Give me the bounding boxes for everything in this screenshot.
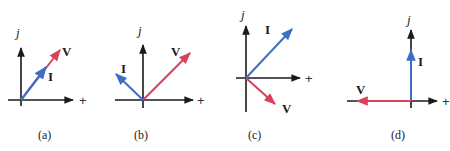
imaginary-axis-label: j — [239, 7, 245, 22]
current-label: I — [418, 54, 423, 69]
panel-a: j + V I (a) — [8, 25, 87, 142]
current-phasor — [116, 74, 143, 100]
current-label: I — [48, 69, 53, 84]
real-axis-label: + — [197, 93, 205, 108]
current-label: I — [265, 22, 270, 37]
panel-caption: (d) — [391, 128, 405, 142]
imaginary-axis-label: j — [136, 23, 142, 38]
voltage-label: V — [62, 44, 72, 59]
imaginary-axis-label: j — [14, 25, 20, 40]
voltage-phasor — [246, 78, 275, 104]
panel-c: j + I V (c) — [236, 7, 313, 142]
panel-caption: (a) — [38, 128, 51, 142]
real-axis-label: + — [442, 94, 450, 109]
current-phasor — [21, 67, 46, 100]
phasor-diagrams: j + V I (a) j + V I (b) j + I V (c) j + … — [0, 0, 450, 151]
real-axis-label: + — [79, 93, 87, 108]
current-label: I — [121, 61, 126, 76]
panel-caption: (c) — [248, 128, 261, 142]
voltage-label: V — [356, 82, 366, 97]
panel-caption: (b) — [134, 128, 148, 142]
real-axis-label: + — [305, 71, 313, 86]
panel-b: j + V I (b) — [115, 23, 205, 142]
voltage-phasor — [143, 53, 190, 100]
voltage-label: V — [171, 44, 181, 59]
imaginary-axis-label: j — [405, 12, 411, 27]
panel-d: j + I V (d) — [347, 12, 450, 142]
voltage-label: V — [282, 101, 292, 116]
